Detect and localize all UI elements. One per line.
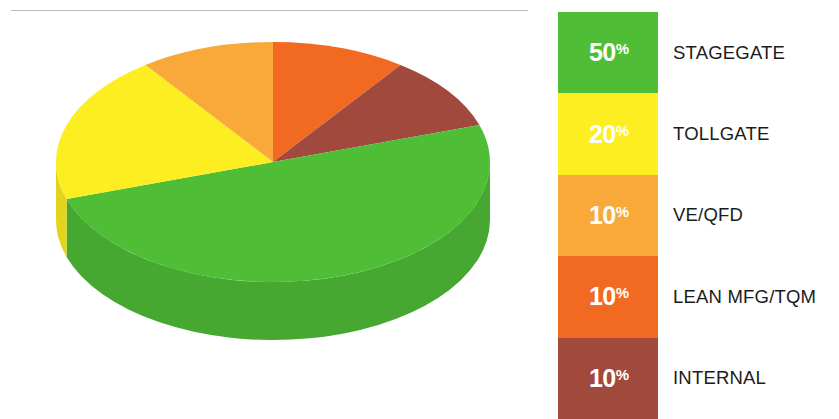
legend-label-internal: INTERNAL	[658, 367, 766, 389]
legend-row-stagegate[interactable]: 50% STAGEGATE	[558, 12, 839, 93]
legend-swatch-lean-mfg-tqm: 10%	[558, 256, 658, 337]
legend-label-ve-qfd: VE/QFD	[658, 204, 743, 226]
legend-percent-lean-mfg-tqm: 10%	[589, 284, 629, 309]
legend-swatch-stagegate: 50%	[558, 12, 658, 93]
legend-label-tollgate: TOLLGATE	[658, 123, 770, 145]
pie-chart-svg	[40, 16, 520, 406]
pie-chart-slide: 50% STAGEGATE 20% TOLLGATE 10% VE/QFD 10…	[0, 0, 839, 419]
legend-row-ve-qfd[interactable]: 10% VE/QFD	[558, 175, 839, 256]
legend-row-lean-mfg-tqm[interactable]: 10% LEAN MFG/TQM	[558, 256, 839, 337]
legend-row-internal[interactable]: 10% INTERNAL	[558, 338, 839, 419]
legend-percent-tollgate: 20%	[589, 122, 629, 147]
pie-chart	[40, 16, 520, 406]
legend: 50% STAGEGATE 20% TOLLGATE 10% VE/QFD 10…	[558, 12, 839, 419]
legend-row-tollgate[interactable]: 20% TOLLGATE	[558, 93, 839, 174]
legend-swatch-ve-qfd: 10%	[558, 175, 658, 256]
legend-swatch-tollgate: 20%	[558, 93, 658, 174]
legend-label-lean-mfg-tqm: LEAN MFG/TQM	[658, 286, 816, 308]
legend-percent-stagegate: 50%	[589, 40, 629, 65]
legend-percent-ve-qfd: 10%	[589, 203, 629, 228]
legend-label-stagegate: STAGEGATE	[658, 42, 785, 64]
legend-percent-internal: 10%	[589, 366, 629, 391]
top-divider-rule	[11, 10, 528, 11]
legend-swatch-internal: 10%	[558, 338, 658, 419]
